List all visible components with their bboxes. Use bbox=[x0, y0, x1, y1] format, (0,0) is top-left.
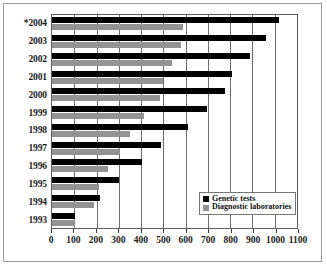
x-axis-tick bbox=[186, 229, 187, 233]
x-axis-tick bbox=[276, 229, 277, 233]
x-axis-tick bbox=[231, 229, 232, 233]
bar-row bbox=[52, 15, 297, 33]
legend-swatch-diagnostic-laboratories bbox=[203, 205, 209, 211]
bar-diagnostic-laboratories bbox=[52, 202, 94, 208]
bar-genetic-tests bbox=[52, 106, 207, 112]
bar-diagnostic-laboratories bbox=[52, 131, 130, 137]
bar-diagnostic-laboratories bbox=[52, 42, 181, 48]
x-axis-tick bbox=[141, 229, 142, 233]
bar-diagnostic-laboratories bbox=[52, 78, 163, 84]
bar-genetic-tests bbox=[52, 17, 279, 23]
bar-genetic-tests bbox=[52, 213, 75, 219]
bar-row bbox=[52, 68, 297, 86]
y-axis-label: 2001 bbox=[9, 68, 50, 86]
bar-genetic-tests bbox=[52, 177, 119, 183]
bar-diagnostic-laboratories bbox=[52, 60, 172, 66]
y-axis-label: 2002 bbox=[9, 50, 50, 68]
bar-row bbox=[52, 51, 297, 69]
x-axis-label: 300 bbox=[111, 235, 125, 245]
y-axis-label: *2004 bbox=[9, 14, 50, 32]
y-axis-label: 1997 bbox=[9, 139, 50, 157]
chart-legend: Genetic tests Diagnostic laboratories bbox=[199, 192, 296, 215]
y-axis-label: 1994 bbox=[9, 193, 50, 211]
bar-row bbox=[52, 157, 297, 175]
y-axis-label: 1999 bbox=[9, 104, 50, 122]
bar-diagnostic-laboratories bbox=[52, 184, 99, 190]
x-axis-label: 0 bbox=[49, 235, 54, 245]
x-axis-tick bbox=[208, 229, 209, 233]
legend-label-diagnostic-laboratories: Diagnostic laboratories bbox=[212, 203, 291, 211]
x-axis-tick bbox=[253, 229, 254, 233]
bar-diagnostic-laboratories bbox=[52, 220, 75, 226]
bar-row bbox=[52, 122, 297, 140]
x-axis-tick bbox=[298, 229, 299, 233]
x-axis-tick bbox=[118, 229, 119, 233]
x-axis-tick bbox=[73, 229, 74, 233]
bar-diagnostic-laboratories bbox=[52, 149, 120, 155]
bar-genetic-tests bbox=[52, 71, 232, 77]
chart-figure: *200420032002200120001999199819971996199… bbox=[3, 3, 322, 262]
x-axis-tick bbox=[96, 229, 97, 233]
bar-row bbox=[52, 175, 297, 193]
bar-diagnostic-laboratories bbox=[52, 166, 108, 172]
x-axis-labels: 010020030040050060070080090010001100 bbox=[51, 235, 298, 249]
bar-genetic-tests bbox=[52, 159, 142, 165]
y-axis-label: 2000 bbox=[9, 86, 50, 104]
x-axis-label: 200 bbox=[89, 235, 103, 245]
bar-genetic-tests bbox=[52, 88, 225, 94]
x-axis-label: 600 bbox=[179, 235, 193, 245]
bar-diagnostic-laboratories bbox=[52, 113, 144, 119]
y-axis-label: 1996 bbox=[9, 157, 50, 175]
bar-row bbox=[52, 86, 297, 104]
legend-item-diagnostic-laboratories: Diagnostic laboratories bbox=[203, 203, 291, 211]
bar-genetic-tests bbox=[52, 35, 266, 41]
y-axis-label: 2003 bbox=[9, 32, 50, 50]
x-axis-label: 500 bbox=[156, 235, 170, 245]
y-axis-label: 1998 bbox=[9, 122, 50, 140]
bar-diagnostic-laboratories bbox=[52, 95, 160, 101]
bar-genetic-tests bbox=[52, 142, 161, 148]
bar-row bbox=[52, 33, 297, 51]
y-axis-label: 1993 bbox=[9, 211, 50, 229]
x-axis-label: 400 bbox=[134, 235, 148, 245]
x-axis-label: 900 bbox=[246, 235, 260, 245]
x-axis-label: 100 bbox=[66, 235, 80, 245]
x-axis-label: 1000 bbox=[266, 235, 285, 245]
bar-genetic-tests bbox=[52, 124, 188, 130]
bar-row bbox=[52, 139, 297, 157]
x-axis-label: 1100 bbox=[289, 235, 307, 245]
x-axis-label: 800 bbox=[224, 235, 238, 245]
x-axis-tick bbox=[163, 229, 164, 233]
bar-genetic-tests bbox=[52, 53, 250, 59]
bar-diagnostic-laboratories bbox=[52, 24, 183, 30]
bar-genetic-tests bbox=[52, 195, 100, 201]
x-axis-ticks bbox=[51, 229, 298, 234]
x-axis-label: 700 bbox=[201, 235, 215, 245]
legend-swatch-genetic-tests bbox=[203, 196, 209, 202]
x-axis-tick bbox=[51, 229, 52, 233]
y-axis-labels: *200420032002200120001999199819971996199… bbox=[9, 14, 50, 229]
bar-row bbox=[52, 104, 297, 122]
y-axis-label: 1995 bbox=[9, 175, 50, 193]
